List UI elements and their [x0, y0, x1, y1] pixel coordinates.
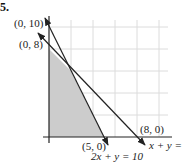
label-point-0-10: (0, 10) [14, 17, 44, 30]
label-point-8-0: (8, 0) [140, 123, 164, 136]
lp-graph: 5. (0, 10) (0, 8) (5, 0) (8, 0) 2x + y =… [0, 0, 182, 166]
problem-number: 5. [0, 0, 9, 14]
label-point-0-8: (0, 8) [19, 38, 43, 51]
label-line-2x-plus-y-10: 2x + y = 10 [91, 150, 144, 162]
label-line-x-plus-y-8: x + y = 8 [148, 139, 182, 151]
